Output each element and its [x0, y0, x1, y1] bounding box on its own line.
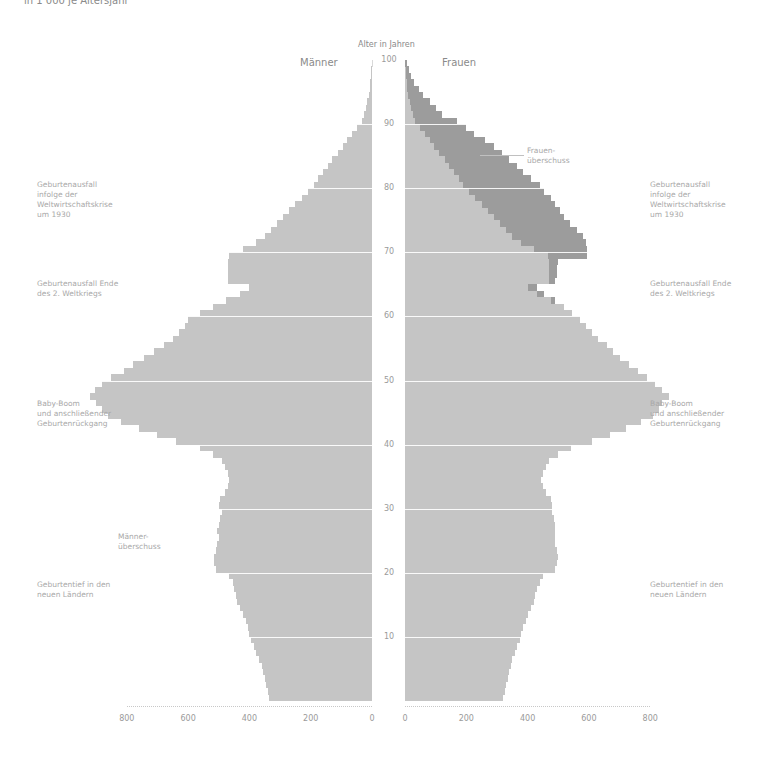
bar-men — [179, 329, 372, 336]
x-axis-line-women — [405, 706, 650, 708]
bar-women — [405, 137, 430, 144]
bar-women — [405, 297, 551, 304]
bar-women-surplus — [494, 214, 564, 221]
bar-men — [343, 143, 372, 150]
bar-women-surplus — [537, 291, 545, 298]
gridline — [90, 509, 372, 510]
bar-women — [405, 592, 535, 599]
bar-men — [213, 304, 372, 311]
age-tick-label: 60 — [372, 311, 406, 320]
bar-women — [405, 400, 662, 407]
x-tick-label: 400 — [513, 714, 543, 723]
bar-men — [121, 419, 372, 426]
bar-men — [263, 669, 372, 676]
bar-women — [405, 605, 531, 612]
gridline — [90, 124, 372, 125]
bar-women — [405, 451, 558, 458]
gridline — [90, 445, 372, 446]
bar-women-surplus — [475, 195, 550, 202]
bar-men — [164, 342, 372, 349]
bar-men — [265, 233, 372, 240]
bar-women — [405, 220, 500, 227]
bar-women-surplus — [454, 169, 523, 176]
age-tick-label: 30 — [372, 504, 406, 513]
bar-men — [124, 368, 372, 375]
gridline — [90, 381, 372, 382]
bar-women — [405, 368, 638, 375]
bar-women-surplus — [459, 175, 531, 182]
bar-men — [371, 73, 372, 80]
bar-men — [240, 291, 372, 298]
bar-women-surplus — [430, 137, 485, 144]
bar-women — [405, 272, 549, 279]
bar-women-surplus — [549, 265, 557, 272]
bar-women — [405, 329, 592, 336]
x-tick-label: 800 — [635, 714, 665, 723]
gridline — [405, 381, 665, 382]
bar-women — [405, 201, 482, 208]
bar-men — [277, 220, 372, 227]
x-tick-label: 0 — [390, 714, 420, 723]
bar-men — [369, 92, 372, 99]
bar-women — [405, 131, 425, 138]
bar-women — [405, 348, 613, 355]
bar-men — [370, 86, 372, 93]
bar-men — [259, 656, 372, 663]
bar-women-surplus — [528, 284, 537, 291]
bar-women — [405, 643, 517, 650]
bar-men — [256, 650, 372, 657]
bar-men — [237, 598, 372, 605]
annotation-left: Männer- überschuss — [118, 532, 161, 552]
bar-women — [405, 663, 511, 670]
bar-men — [328, 163, 372, 170]
annotation-left: Geburtenausfall infolge der Weltwirtscha… — [37, 180, 113, 220]
x-tick-label: 600 — [173, 714, 203, 723]
bar-women — [405, 522, 555, 529]
bar-men — [236, 592, 372, 599]
bar-women — [405, 579, 540, 586]
bar-women — [405, 195, 475, 202]
bar-men — [246, 618, 372, 625]
bar-women — [405, 586, 537, 593]
age-tick-label: 40 — [372, 440, 406, 449]
bar-women — [405, 163, 449, 170]
bar-men — [271, 227, 372, 234]
bar-women-surplus — [434, 143, 494, 150]
bar-women-surplus — [411, 105, 436, 112]
gridline — [90, 252, 372, 253]
bar-men — [367, 98, 372, 105]
bar-men — [243, 611, 372, 618]
bar-men — [228, 470, 372, 477]
bar-men — [256, 239, 372, 246]
bar-men — [220, 496, 372, 503]
bar-women — [405, 304, 564, 311]
bar-women-surplus — [406, 73, 411, 80]
x-tick-label: 0 — [357, 714, 387, 723]
bar-women — [405, 547, 557, 554]
bar-men — [173, 336, 372, 343]
bar-men — [364, 111, 372, 118]
bar-women — [405, 425, 626, 432]
bar-men — [222, 457, 372, 464]
bar-women — [405, 150, 439, 157]
annotation-left: Geburtentief in den neuen Ländern — [37, 580, 110, 600]
bar-women — [405, 227, 506, 234]
bar-women-surplus — [549, 259, 558, 266]
bar-men — [371, 66, 372, 73]
bar-men — [347, 137, 372, 144]
bar-women — [405, 483, 543, 490]
bar-women-surplus — [500, 220, 570, 227]
bar-women-surplus — [549, 272, 557, 279]
annotation-right: Baby-Boom und anschließender Geburtenrüc… — [650, 399, 724, 429]
bar-women-surplus — [406, 66, 409, 73]
bar-women — [405, 688, 505, 695]
bar-men — [185, 323, 372, 330]
age-tick-label: 90 — [372, 119, 406, 128]
bar-women-surplus — [413, 111, 442, 118]
bar-men — [228, 278, 372, 285]
bar-women — [405, 387, 662, 394]
bar-men — [102, 406, 372, 413]
gridline — [405, 637, 665, 638]
bar-women-surplus — [521, 239, 585, 246]
bar-women — [405, 598, 534, 605]
